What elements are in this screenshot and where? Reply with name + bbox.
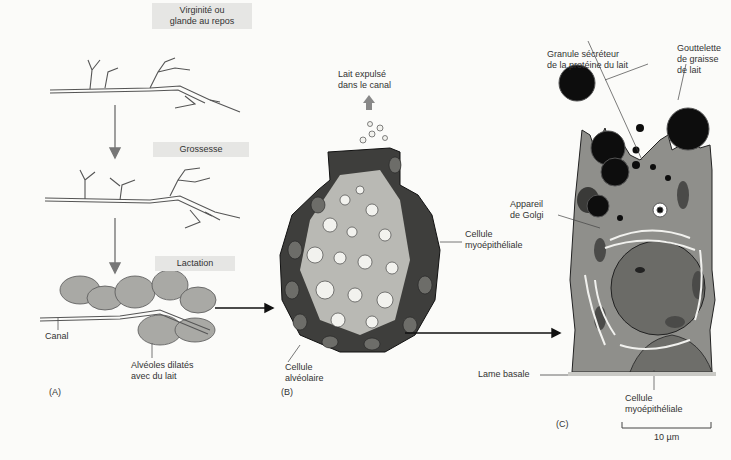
myoepithelial-b-line2: myoépithéliale [465,240,523,251]
arrow-a-to-b [215,304,273,312]
lame-basale-band [568,372,716,376]
milk-expelled-line1: Lait expulsé [338,69,386,80]
alveolar-cell-line2: alvéolaire [285,373,324,384]
arrow-down-1 [110,105,120,158]
myoepithelial-c-line2: myoépithéliale [625,404,683,415]
stage-label-lactation: Lactation [155,256,235,271]
alveoles-label-line1: Alvéoles dilatés [131,360,194,371]
golgi-label-line1: Appareil [510,199,543,210]
golgi-label-line2: de Golgi [510,210,544,221]
fat-droplet-label-line1: Gouttelette [677,43,721,54]
stage-label-virgin-line1: Virginité ou [152,5,252,16]
fat-droplet-label-line2: de graisse [677,54,719,65]
lame-basale-label: Lame basale [478,369,530,380]
panel-a-label: (A) [49,387,61,398]
arrow-b-to-c [405,329,560,337]
arrow-down-2 [110,218,120,273]
scale-bar-label: 10 µm [654,432,679,443]
stage-label-virgin-line2: glande au repos [152,16,252,27]
myoepithelial-b-line1: Cellule [465,229,493,240]
alveoli-lactation [60,270,216,345]
panel-b-label: (B) [281,387,293,398]
granule-label-line1: Granule sécréteur [547,49,619,60]
canal-label: Canal [45,331,69,342]
fat-droplet-label-line3: de lait [677,65,701,76]
stage-label-virgin: Virginité ou glande au repos [152,3,252,29]
stage-label-pregnancy: Grossesse [153,142,249,157]
alveoles-label-line2: avec du lait [131,371,177,382]
alveolar-cell-line1: Cellule [285,362,313,373]
granule-label-line2: de la protéine du lait [547,60,628,71]
duct-virgin [50,58,240,112]
panel-c-label: (C) [556,419,569,430]
duct-pregnancy [45,168,240,228]
myoepithelial-c-line1: Cellule [625,393,653,404]
milk-up-arrow [363,95,375,110]
milk-expelled-line2: dans le canal [338,80,391,91]
scale-bar [622,422,711,428]
